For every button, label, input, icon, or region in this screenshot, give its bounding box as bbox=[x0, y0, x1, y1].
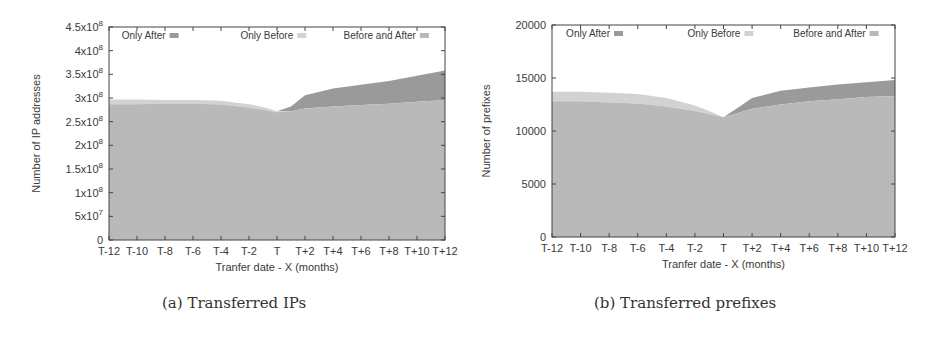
x-axis-label: Tranfer date - X (months) bbox=[215, 261, 338, 273]
y-tick-label: 1.5x108 bbox=[66, 161, 104, 175]
chart-panel-ips: 05x1071x1081.5x1082x1082.5x1083x1083.5x1… bbox=[0, 0, 470, 300]
x-tick-label: T+6 bbox=[800, 242, 819, 254]
svg-text:Only Before: Only Before bbox=[240, 30, 293, 41]
x-tick-label: T+2 bbox=[742, 242, 761, 254]
y-tick-label: 3.5x108 bbox=[66, 66, 104, 80]
y-tick-label: 1x108 bbox=[75, 185, 104, 199]
x-tick-label: T bbox=[720, 242, 727, 254]
x-tick-label: T-10 bbox=[126, 245, 148, 257]
svg-text:Only After: Only After bbox=[566, 28, 611, 39]
area-before-and-after bbox=[552, 96, 895, 237]
x-tick-label: T-8 bbox=[157, 245, 173, 257]
x-tick-label: T+4 bbox=[771, 242, 790, 254]
caption-b: (b) Transferred prefixes bbox=[594, 294, 776, 312]
x-tick-label: T-10 bbox=[570, 242, 592, 254]
area-chart-ips: 05x1071x1081.5x1082x1082.5x1083x1083.5x1… bbox=[0, 0, 470, 300]
legend-item: Before and After bbox=[793, 28, 878, 39]
x-tick-label: T-12 bbox=[98, 245, 120, 257]
area-chart-prefixes: 05000100001500020000T-12T-10T-8T-6T-4T-2… bbox=[470, 0, 937, 300]
x-tick-label: T+10 bbox=[854, 242, 879, 254]
y-tick-label: 5x107 bbox=[75, 208, 104, 222]
y-tick-label: 15000 bbox=[515, 72, 546, 84]
x-tick-label: T-8 bbox=[601, 242, 617, 254]
y-tick-label: 10000 bbox=[515, 125, 546, 137]
x-tick-label: T-4 bbox=[658, 242, 674, 254]
plot-areas bbox=[109, 71, 445, 241]
y-tick-label: 4x108 bbox=[75, 43, 104, 57]
legend-item: Only After bbox=[122, 30, 179, 41]
x-tick-label: T-2 bbox=[241, 245, 257, 257]
y-axis-label: Number of IP addresses bbox=[30, 74, 42, 193]
x-axis-label: Tranfer date - X (months) bbox=[662, 258, 785, 270]
x-tick-label: T+8 bbox=[379, 245, 398, 257]
x-tick-label: T+4 bbox=[323, 245, 342, 257]
x-tick-label: T+6 bbox=[351, 245, 370, 257]
x-tick-label: T-4 bbox=[213, 245, 229, 257]
svg-text:Before and After: Before and After bbox=[344, 30, 417, 41]
y-tick-label: 2x108 bbox=[75, 137, 104, 151]
x-tick-label: T+10 bbox=[404, 245, 429, 257]
x-tick-label: T-6 bbox=[630, 242, 646, 254]
legend-item: Only Before bbox=[688, 28, 754, 39]
legend-item: Only Before bbox=[240, 30, 306, 41]
area-before-and-after bbox=[109, 100, 445, 240]
x-tick-label: T-6 bbox=[185, 245, 201, 257]
svg-text:Only Before: Only Before bbox=[688, 28, 741, 39]
svg-text:Only After: Only After bbox=[122, 30, 167, 41]
y-tick-label: 4.5x108 bbox=[66, 19, 104, 33]
legend-item: Only After bbox=[566, 28, 623, 39]
svg-text:Before and After: Before and After bbox=[793, 28, 866, 39]
x-tick-label: T-2 bbox=[687, 242, 703, 254]
legend-item: Before and After bbox=[344, 30, 429, 41]
y-tick-label: 5000 bbox=[522, 178, 546, 190]
x-tick-label: T+2 bbox=[295, 245, 314, 257]
caption-a: (a) Transferred IPs bbox=[162, 294, 306, 312]
x-tick-label: T bbox=[274, 245, 281, 257]
x-tick-label: T+8 bbox=[828, 242, 847, 254]
x-tick-label: T+12 bbox=[882, 242, 907, 254]
y-axis-label: Number of prefixes bbox=[480, 84, 492, 177]
y-tick-label: 20000 bbox=[515, 19, 546, 31]
y-tick-label: 3x108 bbox=[75, 90, 104, 104]
y-tick-label: 2.5x108 bbox=[66, 114, 104, 128]
x-tick-label: T-12 bbox=[541, 242, 563, 254]
plot-areas bbox=[552, 80, 895, 237]
chart-panel-prefixes: 05000100001500020000T-12T-10T-8T-6T-4T-2… bbox=[470, 0, 937, 300]
x-tick-label: T+12 bbox=[432, 245, 457, 257]
